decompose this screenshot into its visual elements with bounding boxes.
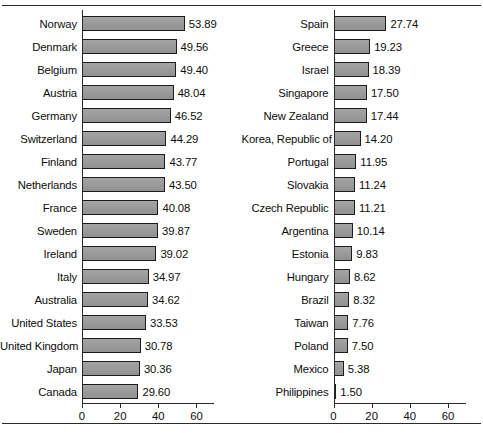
bar-row: Canada29.60 <box>0 380 242 403</box>
bar-row: Australia34.62 <box>0 288 242 311</box>
bar-row: Spain27.74 <box>242 12 483 35</box>
left-value-axis <box>82 403 214 404</box>
bar-track: 39.87 <box>82 219 242 242</box>
axis-tick <box>334 404 335 408</box>
bar <box>334 16 387 31</box>
bar-track: 30.78 <box>82 334 242 357</box>
bar-value-label: 10.14 <box>353 223 385 238</box>
bar-value-label: 9.83 <box>352 246 378 261</box>
bar-row: New Zealand17.44 <box>242 104 483 127</box>
axis-tick <box>82 404 83 408</box>
category-label: Finland <box>0 156 82 168</box>
bar-track: 19.23 <box>334 35 483 58</box>
category-label: Brazil <box>242 294 334 306</box>
bar-row: Greece19.23 <box>242 35 483 58</box>
bar <box>82 177 165 192</box>
axis-tick <box>196 404 197 408</box>
bar <box>334 154 357 169</box>
bar-track: 49.40 <box>82 58 242 81</box>
bar <box>334 269 350 284</box>
category-label: Slovakia <box>242 179 334 191</box>
bar-value-label: 11.95 <box>356 154 387 169</box>
bar-row: Finland43.77 <box>0 150 242 173</box>
bar <box>334 85 367 100</box>
axis-tick-label: 20 <box>105 410 135 422</box>
category-label: Singapore <box>242 87 334 99</box>
bar-row: Taiwan7.76 <box>242 311 483 334</box>
bar-track: 18.39 <box>334 58 483 81</box>
category-label: Japan <box>0 363 82 375</box>
bar-row: Belgium49.40 <box>0 58 242 81</box>
bar-value-label: 49.56 <box>177 39 209 54</box>
bar-value-label: 40.08 <box>158 200 190 215</box>
bar-value-label: 34.97 <box>149 269 181 284</box>
category-label: Czech Republic <box>242 202 334 214</box>
category-label: Israel <box>242 64 334 76</box>
bar-value-label: 19.23 <box>370 39 402 54</box>
bar-value-label: 27.74 <box>386 16 418 31</box>
bar <box>334 62 369 77</box>
axis-tick <box>158 404 159 408</box>
category-label: Sweden <box>0 225 82 237</box>
bar-value-label: 39.87 <box>158 223 190 238</box>
axis-tick-label: 0 <box>67 410 97 422</box>
bar-track: 7.50 <box>334 334 483 357</box>
category-label: Estonia <box>242 248 334 260</box>
category-label: Philippines <box>242 386 334 398</box>
bar-row: Poland7.50 <box>242 334 483 357</box>
bar <box>82 39 177 54</box>
bar-track: 48.04 <box>82 81 242 104</box>
bar-row: Germany46.52 <box>0 104 242 127</box>
bar-track: 11.95 <box>334 150 483 173</box>
bar <box>334 292 350 307</box>
category-label: Greece <box>242 41 334 53</box>
bar <box>334 361 344 376</box>
bar-row: Sweden39.87 <box>0 219 242 242</box>
category-label: Australia <box>0 294 82 306</box>
bar-value-label: 1.50 <box>336 384 362 399</box>
bar-track: 34.97 <box>82 265 242 288</box>
bar-value-label: 30.36 <box>140 361 172 376</box>
bar-row: Slovakia11.24 <box>242 173 483 196</box>
bar-row: Italy34.97 <box>0 265 242 288</box>
bar-row: Estonia9.83 <box>242 242 483 265</box>
category-label: Spain <box>242 18 334 30</box>
bar-row: Singapore17.50 <box>242 81 483 104</box>
axis-tick-label: 60 <box>433 410 463 422</box>
bar-value-label: 14.20 <box>361 131 393 146</box>
bar-row: Japan30.36 <box>0 357 242 380</box>
bar-value-label: 34.62 <box>148 292 180 307</box>
bar-value-label: 17.50 <box>367 85 399 100</box>
bar-value-label: 8.32 <box>349 292 375 307</box>
left-category-axis <box>82 10 83 403</box>
bar-track: 8.32 <box>334 288 483 311</box>
bar-track: 49.56 <box>82 35 242 58</box>
bar <box>82 85 174 100</box>
axis-tick <box>372 404 373 408</box>
bar-value-label: 11.24 <box>355 177 386 192</box>
bar <box>82 384 138 399</box>
category-label: United Kingdom <box>0 340 82 352</box>
bar-track: 11.24 <box>334 173 483 196</box>
category-label: Poland <box>242 340 334 352</box>
bar-row: Czech Republic11.21 <box>242 196 483 219</box>
chart-panels: Norway53.89Denmark49.56Belgium49.40Austr… <box>0 10 483 418</box>
category-label: Belgium <box>0 64 82 76</box>
bar <box>82 154 165 169</box>
axis-tick-label: 20 <box>357 410 387 422</box>
bar-track: 1.50 <box>334 380 483 403</box>
bar-track: 40.08 <box>82 196 242 219</box>
bar <box>82 62 176 77</box>
bar-track: 53.89 <box>82 12 242 35</box>
bar-row: United Kingdom30.78 <box>0 334 242 357</box>
right-bar-rows: Spain27.74Greece19.23Israel18.39Singapor… <box>242 12 483 403</box>
category-label: Austria <box>0 87 82 99</box>
bar-row: Philippines1.50 <box>242 380 483 403</box>
bar <box>334 39 371 54</box>
bar-track: 7.76 <box>334 311 483 334</box>
bar <box>334 246 353 261</box>
category-label: France <box>0 202 82 214</box>
right-chart-panel: Spain27.74Greece19.23Israel18.39Singapor… <box>242 10 483 418</box>
bar-track: 27.74 <box>334 12 483 35</box>
category-label: Taiwan <box>242 317 334 329</box>
